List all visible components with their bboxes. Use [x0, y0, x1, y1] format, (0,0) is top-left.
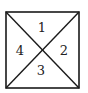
- region-label-left: 4: [16, 43, 24, 58]
- region-label-bottom: 3: [37, 63, 45, 78]
- region-label-right: 2: [60, 43, 68, 58]
- square-diagonal-diagram: 1 2 3 4: [0, 0, 88, 93]
- region-label-top: 1: [38, 20, 46, 35]
